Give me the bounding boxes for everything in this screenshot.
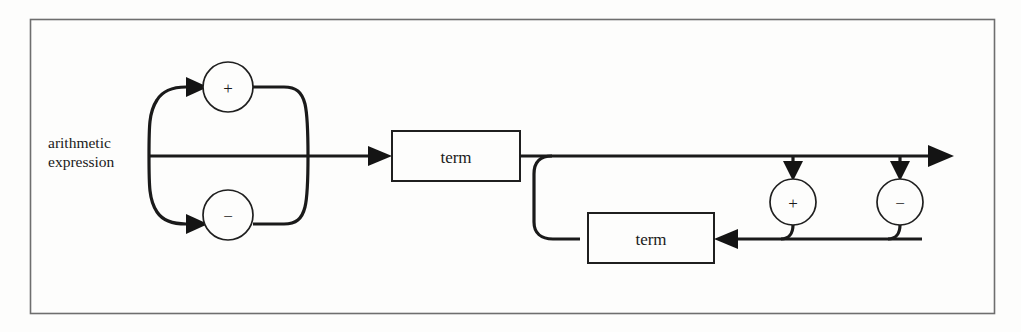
- arrowhead-diagram-exit: [928, 145, 954, 167]
- term-first-label: term: [440, 148, 471, 167]
- merge-branch-up-rail: [253, 87, 308, 156]
- op-plus-label: +: [788, 194, 798, 213]
- sign-plus-label: +: [223, 79, 233, 98]
- arrowhead-into-term-repeat: [714, 229, 738, 249]
- arrowhead-into-op-plus: [783, 161, 803, 181]
- arrowhead-into-term-first: [368, 146, 392, 166]
- op-plus-exit-rail: [781, 225, 793, 239]
- op-minus-exit-rail: [888, 225, 900, 239]
- loop-left-descend-rail: [534, 156, 580, 239]
- op-minus-label: −: [895, 194, 905, 213]
- arrowhead-into-op-minus: [890, 161, 910, 181]
- sign-minus-label: −: [223, 207, 233, 226]
- merge-branch-down-rail: [253, 156, 308, 224]
- entry-branch-down-rail: [149, 156, 200, 224]
- railroad-diagram-canvas: + − term term + −: [0, 0, 1021, 332]
- term-repeat-label: term: [635, 230, 666, 249]
- syntax-diagram-page: arithmetic expression + − term: [0, 0, 1021, 332]
- entry-branch-up-rail: [149, 87, 200, 156]
